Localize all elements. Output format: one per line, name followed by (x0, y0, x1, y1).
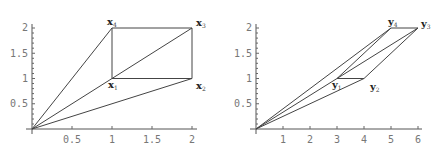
right-x-tick-label: 3 (334, 134, 340, 145)
right-y-tick-label: 0.5 (234, 98, 252, 109)
ray-to-y4 (256, 28, 391, 129)
label-y3: y3 (420, 18, 431, 30)
right-x-tick-label: 1 (280, 134, 286, 145)
left-x-tick-label: 2 (189, 134, 195, 145)
ray-to-y2 (256, 79, 364, 130)
label-x1: x1 (108, 79, 118, 91)
right-x-tick-label: 5 (388, 134, 394, 145)
label-x3: x3 (196, 17, 206, 29)
left-y-tick-label: 0.5 (10, 98, 28, 109)
right-y-tick-label: 1.5 (234, 48, 252, 59)
label-x4: x4 (107, 16, 117, 28)
ray-to-x4 (32, 28, 112, 129)
right-y-tick-label: 2 (246, 22, 252, 33)
left-x-tick-label: 1 (109, 134, 115, 145)
right-y-tick-label: 1 (246, 73, 252, 84)
right-plot: 1 2 3 4 5 6 0.5 1 1.5 2 y1 y2 y3 y4 (234, 16, 431, 145)
left-plot: 0.5 1 1.5 2 0.5 1 1.5 2 x1 x2 x3 x4 (10, 16, 206, 145)
label-y4: y4 (387, 16, 398, 28)
right-x-tick-label: 4 (361, 134, 367, 145)
left-x-tick-label: 1.5 (143, 134, 161, 145)
left-y-tick-label: 2 (22, 22, 28, 33)
left-x-tick-label: 0.5 (63, 134, 81, 145)
diagram-canvas: 0.5 1 1.5 2 0.5 1 1.5 2 x1 x2 x3 x4 (0, 0, 437, 153)
label-y2: y2 (369, 81, 380, 93)
right-x-tick-label: 2 (307, 134, 313, 145)
left-y-tick-label: 1.5 (10, 48, 28, 59)
label-y1: y1 (331, 79, 342, 91)
left-y-tick-label: 1 (22, 73, 28, 84)
label-x2: x2 (196, 80, 206, 92)
right-x-tick-label: 6 (415, 134, 421, 145)
